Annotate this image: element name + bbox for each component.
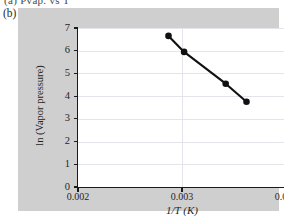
data-series-layer bbox=[18, 8, 284, 220]
x-axis-title-text: 1/T (K) bbox=[166, 204, 198, 216]
series-line bbox=[169, 36, 247, 102]
data-point-marker bbox=[165, 33, 172, 40]
x-axis-title: 1/T (K) bbox=[78, 204, 284, 216]
figure-root: (a) Pvap. vs T (b) 01234567 0.0020.0030.… bbox=[0, 0, 284, 220]
panel-label-b: (b) bbox=[3, 7, 16, 19]
previous-figure-caption-fragment: (a) Pvap. vs T bbox=[4, 0, 70, 6]
data-point-marker bbox=[181, 49, 188, 56]
figure-panel: 01234567 0.0020.0030.004 ln (Vapor press… bbox=[18, 8, 279, 211]
data-point-marker bbox=[243, 99, 250, 106]
data-point-marker bbox=[222, 80, 229, 87]
y-axis-title: ln (Vapor pressure) bbox=[34, 36, 45, 176]
